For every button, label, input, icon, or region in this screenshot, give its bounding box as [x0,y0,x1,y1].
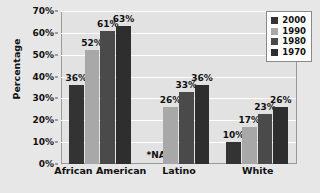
bar-group: *NA26%33%36% [140,11,219,164]
legend-item[interactable]: 1980 [271,37,306,47]
x-axis-tick-label: Latino [162,166,196,176]
bar [69,85,84,164]
bar [85,50,100,164]
legend-item-label: 2000 [282,16,306,25]
legend-swatch-icon [271,17,278,24]
bar [100,31,115,164]
bar [116,26,131,164]
legend-item[interactable]: 2000 [271,16,306,26]
legend-swatch-icon [271,38,278,45]
y-axis-tick-mark [55,32,58,33]
legend-item-label: 1970 [282,48,306,57]
chart-figure: Percentage 0%10%20%30%40%50%60%70% 36%52… [0,0,320,193]
bar [163,107,178,164]
y-axis-tick-mark [55,142,58,143]
y-axis-tick-label: 20% [32,116,54,125]
y-axis-tick-mark [55,11,58,12]
y-axis-tick-mark [55,98,58,99]
y-axis-tick-mark [55,76,58,77]
x-axis-tick-labels: African AmericanLatinoWhite [61,166,297,186]
legend-swatch-icon [271,28,278,35]
y-axis-tick-label: 40% [32,72,54,81]
legend-item-label: 1990 [282,27,306,36]
x-axis-tick-label: White [242,166,273,176]
bar [273,107,288,164]
y-axis-tick-mark [55,54,58,55]
plot-area: 36%52%61%63%*NA26%33%36%10%17%23%26% [61,11,297,164]
x-axis-tick-label: African American [54,166,146,176]
y-axis-tick-label: 60% [32,28,54,37]
legend-item[interactable]: 1990 [271,26,306,36]
bar [226,142,241,164]
bar [242,127,257,164]
legend-swatch-icon [271,49,278,56]
legend: 2000199019801970 [266,11,312,62]
bar [179,92,194,164]
bar-value-label: 26% [270,96,292,105]
y-axis-tick-label: 0% [39,160,54,169]
bar [258,114,273,164]
y-axis-tick-mark [55,120,58,121]
y-axis-tick-label: 30% [32,94,54,103]
y-axis-tick-label: 70% [32,7,54,16]
y-axis-tick-labels: 0%10%20%30%40%50%60%70% [22,8,58,166]
bar [195,85,210,164]
legend-item-label: 1980 [282,37,306,46]
bar-value-label: 36% [191,74,213,83]
legend-item[interactable]: 1970 [271,47,306,57]
y-axis-tick-label: 10% [32,138,54,147]
bar-value-label: 63% [113,15,135,24]
y-axis-tick-label: 50% [32,50,54,59]
bar-group: 36%52%61%63% [61,11,140,164]
